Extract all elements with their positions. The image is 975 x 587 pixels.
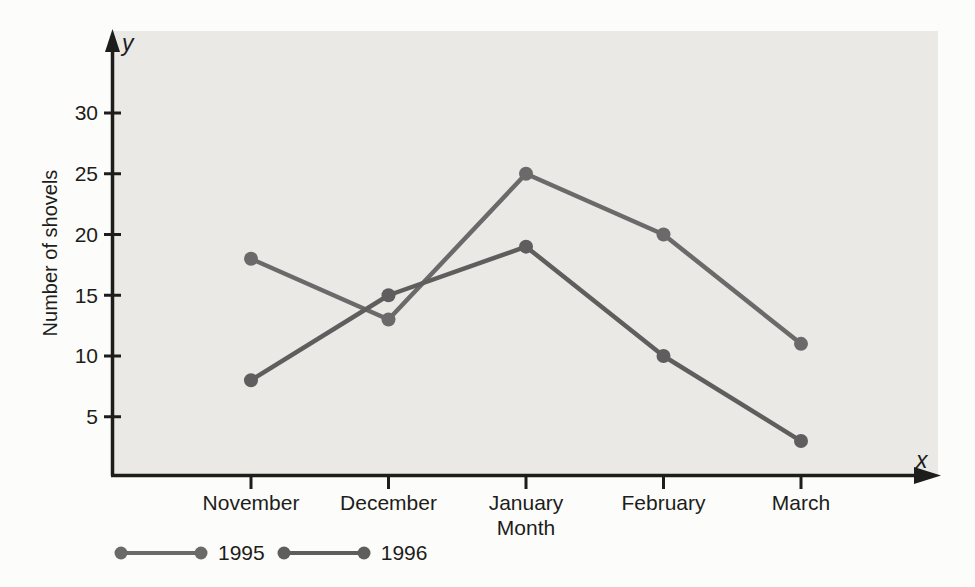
- y-tick-label-5: 5: [86, 405, 98, 428]
- data-point-1996-January: [519, 240, 533, 254]
- legend-line-marker-1995-icon: [112, 544, 210, 562]
- y-tick-label-25: 25: [75, 162, 98, 185]
- y-tick-label-10: 10: [75, 344, 98, 367]
- data-point-1995-January: [519, 167, 533, 181]
- x-tick-label-February: February: [621, 491, 706, 514]
- x-tick-label-January: January: [489, 491, 564, 514]
- data-point-1996-February: [657, 349, 671, 363]
- y-tick-label-15: 15: [75, 284, 98, 307]
- legend-item-1995: 1995: [112, 541, 265, 565]
- data-point-1996-December: [382, 288, 396, 302]
- data-point-1996-November: [244, 373, 258, 387]
- y-tick-label-30: 30: [75, 101, 98, 124]
- chart-legend: 1995 1996: [112, 541, 427, 565]
- line-chart-canvas: 51015202530NovemberDecemberJanuaryFebrua…: [0, 0, 975, 587]
- x-axis-title: Month: [497, 516, 555, 539]
- x-tick-label-December: December: [340, 491, 437, 514]
- y-axis-title: Number of shovels: [39, 170, 61, 337]
- y-axis-symbol: y: [120, 30, 135, 56]
- y-tick-label-20: 20: [75, 223, 98, 246]
- x-tick-label-November: November: [203, 491, 300, 514]
- legend-label-1995: 1995: [218, 541, 265, 565]
- x-axis-symbol: x: [915, 447, 929, 473]
- x-tick-label-March: March: [772, 491, 830, 514]
- line-graph-figure: 51015202530NovemberDecemberJanuaryFebrua…: [0, 0, 975, 587]
- data-point-1995-February: [657, 228, 671, 242]
- data-point-1995-March: [794, 337, 808, 351]
- data-point-1995-December: [382, 313, 396, 327]
- legend-label-1996: 1996: [381, 541, 428, 565]
- data-point-1996-March: [794, 434, 808, 448]
- legend-item-1996: 1996: [275, 541, 428, 565]
- legend-line-marker-1996-icon: [275, 544, 373, 562]
- data-point-1995-November: [244, 252, 258, 266]
